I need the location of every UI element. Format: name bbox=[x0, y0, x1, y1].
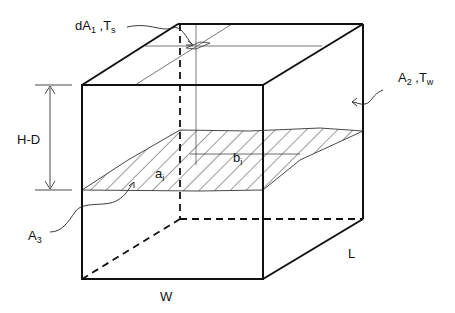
label-a2: A2 ,Tw bbox=[398, 70, 434, 87]
label-h-d: H-D bbox=[17, 132, 40, 147]
label-da1: dA1 ,Ts bbox=[75, 18, 116, 35]
top-right-depth-edge bbox=[263, 24, 363, 85]
enclosure-diagram: dA1 ,Ts A2 ,Tw A3 H-D ai bi W L bbox=[0, 0, 455, 313]
label-l: L bbox=[348, 246, 355, 261]
bottom-left-depth-edge bbox=[82, 219, 180, 279]
a2-leader bbox=[352, 90, 383, 104]
cross-section-a3 bbox=[82, 128, 363, 191]
label-w: W bbox=[160, 289, 173, 304]
height-dimension bbox=[35, 85, 72, 190]
label-a3: A3 bbox=[28, 228, 42, 245]
top-left-depth-edge bbox=[82, 24, 178, 85]
